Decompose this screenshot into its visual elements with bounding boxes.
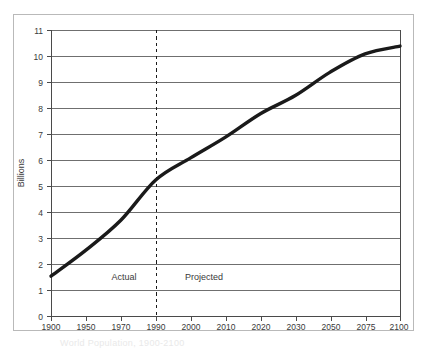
x-tick-label: 2030: [287, 322, 306, 332]
y-axis-title: Billions: [16, 158, 26, 187]
y-tick-label: 6: [38, 156, 43, 166]
x-tick-label: 2010: [217, 322, 236, 332]
x-tick-label: 2020: [252, 322, 271, 332]
x-tick-label: 1970: [112, 322, 131, 332]
x-tick-label: 2075: [357, 322, 376, 332]
y-tick-marks: [47, 31, 51, 317]
gridlines: [51, 31, 401, 291]
projected-region-label: Projected: [185, 272, 223, 282]
x-tick-label: 1990: [147, 322, 166, 332]
actual-region-label: Actual: [111, 272, 136, 282]
y-tick-label: 10: [34, 52, 44, 62]
y-tick-label: 9: [38, 78, 43, 88]
y-tick-label: 7: [38, 130, 43, 140]
y-tick-label: 2: [38, 260, 43, 270]
y-tick-labels: 11 10 9 8 7 6 5 4 3 2 1 0: [34, 26, 44, 322]
x-tick-labels: 1900 1950 1970 1990 2000 2010 2020 2030 …: [42, 322, 409, 332]
y-tick-label: 5: [38, 182, 43, 192]
population-line-chart: 11 10 9 8 7 6 5 4 3 2 1 0 Billions: [14, 15, 415, 332]
axis-spines: [51, 30, 401, 317]
y-tick-label: 0: [38, 312, 43, 322]
y-tick-label: 11: [34, 26, 43, 36]
x-tick-label: 1950: [77, 322, 96, 332]
figure-caption: World Population, 1900-2100: [60, 338, 185, 348]
figure: 11 10 9 8 7 6 5 4 3 2 1 0 Billions: [0, 0, 431, 348]
y-tick-label: 1: [38, 286, 43, 296]
population-curve: [51, 46, 400, 276]
y-tick-label: 3: [38, 234, 43, 244]
x-tick-label: 2100: [390, 322, 409, 332]
x-tick-label: 2000: [182, 322, 201, 332]
x-tick-label: 2050: [322, 322, 341, 332]
x-tick-label: 1900: [42, 322, 61, 332]
chart-frame: 11 10 9 8 7 6 5 4 3 2 1 0 Billions: [13, 14, 414, 331]
y-tick-label: 4: [38, 208, 43, 218]
y-tick-label: 8: [38, 104, 43, 114]
x-tick-marks: [52, 317, 401, 321]
